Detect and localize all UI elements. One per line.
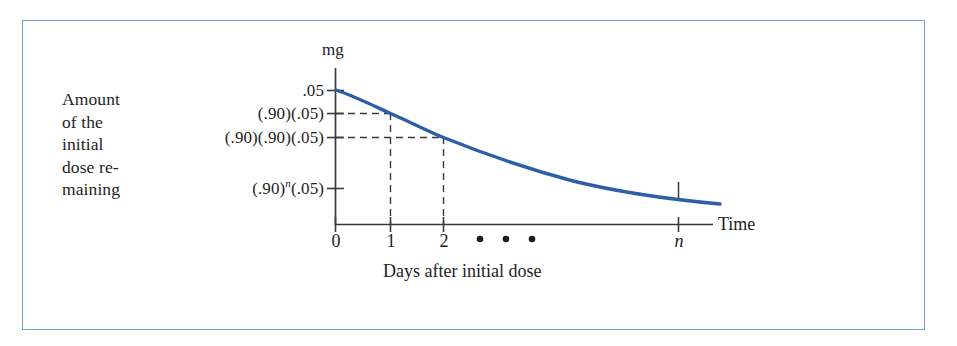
y-axis-unit-label: mg [322,40,344,60]
y-axis-series-description-line-1: of the [62,111,194,134]
x-tick-label-0: 0 [327,231,345,252]
x-axis-name-label: Time [718,214,755,235]
y-tick-label-3: (.90)n(.05) [252,179,324,199]
figure-caption: Days after initial dose [383,261,541,282]
x-axis-ellipsis-dot-2 [503,236,510,243]
x-axis-ellipsis-dot-1 [477,236,484,243]
y-tick-label-3-base: (.90) [252,179,285,198]
x-tick-label-2: 2 [435,231,453,252]
x-tick-label-n: n [670,231,688,252]
x-tick-label-1: 1 [382,231,400,252]
x-axis-ellipsis-dot-3 [529,236,536,243]
y-axis-series-description: Amount of the initial dose re- maining [62,88,194,201]
y-axis-series-description-line-2: initial [62,133,194,156]
figure-root: Amount of the initial dose re- maining m… [0,0,957,346]
y-axis-series-description-line-3: dose re- [62,156,194,179]
y-tick-label-1: (.90)(.05) [258,104,324,124]
y-axis-series-description-line-4: maining [62,178,194,201]
y-tick-label-0: .05 [302,81,324,101]
y-tick-label-3-tail: (.05) [291,179,324,198]
y-axis-series-description-line-0: Amount [62,88,194,111]
y-tick-label-2: (.90)(.90)(.05) [225,128,324,148]
decay-curve [336,90,720,204]
